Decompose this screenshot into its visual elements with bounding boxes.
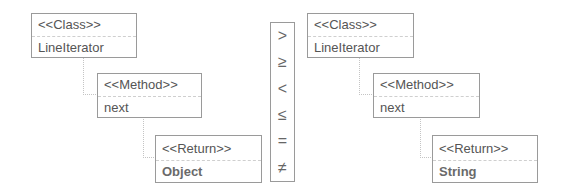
- left-return-box: <<Return>> Object: [155, 135, 262, 183]
- right-return-box: <<Return>> String: [432, 135, 538, 183]
- less-equal-operator[interactable]: ≤: [278, 107, 287, 123]
- left-class-method-connector: [83, 58, 98, 95]
- less-than-operator[interactable]: <: [278, 81, 287, 97]
- greater-equal-operator[interactable]: ≥: [278, 54, 287, 70]
- right-method-name: next: [374, 97, 479, 118]
- left-method-name: next: [98, 97, 201, 118]
- right-class-box: <<Class>> LineIterator: [307, 13, 414, 58]
- comparison-operator-panel: > ≥ < ≤ = ≠: [270, 22, 295, 182]
- right-return-stereotype: <<Return>>: [433, 136, 537, 161]
- right-method-box: <<Method>> next: [373, 73, 480, 118]
- left-return-stereotype: <<Return>>: [156, 136, 261, 161]
- left-class-box: <<Class>> LineIterator: [31, 13, 137, 58]
- equal-operator[interactable]: =: [278, 133, 287, 149]
- left-class-name: LineIterator: [32, 37, 136, 58]
- left-method-stereotype: <<Method>>: [98, 74, 201, 97]
- left-class-stereotype: <<Class>>: [32, 14, 136, 37]
- right-class-method-connector: [359, 58, 374, 95]
- left-method-box: <<Method>> next: [97, 73, 202, 118]
- right-return-type: String: [433, 161, 537, 182]
- right-class-name: LineIterator: [308, 37, 413, 58]
- right-class-stereotype: <<Class>>: [308, 14, 413, 37]
- not-equal-operator[interactable]: ≠: [278, 160, 287, 176]
- right-method-stereotype: <<Method>>: [374, 74, 479, 97]
- left-return-type: Object: [156, 161, 261, 182]
- greater-than-operator[interactable]: >: [278, 28, 287, 44]
